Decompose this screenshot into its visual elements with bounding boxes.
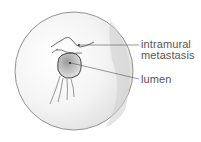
endoscopic-view-diagram <box>0 0 201 142</box>
label-intramural-line2: metastasis <box>141 50 195 61</box>
label-lumen-line1: lumen <box>141 74 171 85</box>
lumen-marker-dot <box>69 62 71 64</box>
lumen-shape <box>58 53 82 78</box>
metastasis-marker-dot <box>78 44 80 46</box>
label-lumen: lumen <box>141 74 171 85</box>
label-intramural-metastasis: intramural metastasis <box>141 39 195 61</box>
